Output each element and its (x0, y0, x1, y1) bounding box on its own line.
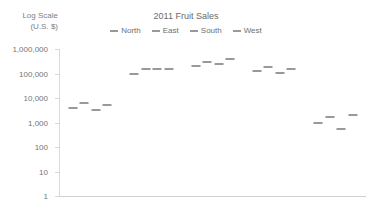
legend-swatch-icon (152, 30, 160, 32)
data-marker-east-mangoes (80, 102, 89, 104)
legend-label: North (121, 26, 141, 35)
legend-label: East (163, 26, 179, 35)
y-tick-label: 10,000 (0, 94, 48, 103)
y-tick-mark (55, 196, 59, 197)
plot-area: 1101001,00010,000100,0001,000,000Mangoes… (59, 49, 366, 196)
chart-title: 2011 Fruit Sales (0, 11, 372, 21)
data-marker-west-peaches (164, 68, 173, 70)
chart-legend: NorthEastSouthWest (0, 26, 372, 35)
y-tick-label: 1,000 (0, 119, 48, 128)
y-tick-mark (55, 49, 59, 50)
y-tick-label: 100 (0, 143, 48, 152)
legend-swatch-icon (233, 30, 241, 32)
legend-label: West (244, 26, 262, 35)
data-marker-south-apples (214, 63, 223, 65)
y-tick-mark (55, 172, 59, 173)
x-axis-line (59, 196, 366, 197)
data-marker-west-apples (226, 58, 235, 60)
y-tick-label: 1,000,000 (0, 45, 48, 54)
legend-item-north[interactable]: North (110, 26, 141, 35)
data-marker-east-peaches (141, 68, 150, 70)
data-marker-east-guavas (325, 116, 334, 118)
data-marker-north-mangoes (68, 107, 77, 109)
legend-swatch-icon (190, 30, 198, 32)
y-tick-mark (55, 123, 59, 124)
data-marker-west-mangoes (103, 104, 112, 106)
data-marker-east-pears (264, 66, 273, 68)
data-marker-west-guavas (348, 114, 357, 116)
data-marker-north-guavas (314, 122, 323, 124)
data-marker-south-guavas (337, 128, 346, 130)
data-marker-west-pears (287, 68, 296, 70)
data-marker-south-pears (275, 72, 284, 74)
y-tick-mark (55, 147, 59, 148)
legend-item-east[interactable]: East (152, 26, 179, 35)
fruit-sales-chart: Log Scale (U.S. $) 2011 Fruit Sales Nort… (0, 0, 372, 222)
legend-item-south[interactable]: South (190, 26, 222, 35)
y-tick-mark (55, 74, 59, 75)
legend-label: South (201, 26, 222, 35)
y-tick-mark (55, 98, 59, 99)
y-tick-label: 1 (0, 192, 48, 201)
data-marker-north-apples (191, 65, 200, 67)
y-tick-label: 100,000 (0, 70, 48, 79)
data-marker-south-peaches (153, 68, 162, 70)
y-tick-label: 10 (0, 168, 48, 177)
data-marker-north-peaches (130, 73, 139, 75)
legend-item-west[interactable]: West (233, 26, 262, 35)
data-marker-east-apples (203, 61, 212, 63)
legend-swatch-icon (110, 30, 118, 32)
data-marker-north-pears (252, 70, 261, 72)
data-marker-south-mangoes (91, 109, 100, 111)
